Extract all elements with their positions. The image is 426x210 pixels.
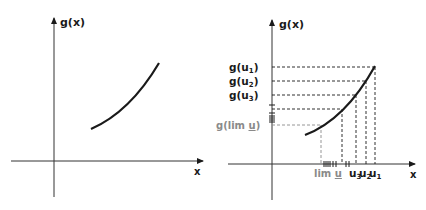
label-lim-u: lim u bbox=[314, 168, 342, 179]
left-graph: g(x) x bbox=[11, 16, 203, 197]
right-x-axis-label: x bbox=[410, 169, 417, 180]
right-graph: g(x) x bbox=[216, 18, 417, 200]
label-u1: u1 bbox=[369, 167, 381, 181]
projection-lines bbox=[272, 67, 375, 164]
label-g-u1: g(u1) bbox=[229, 61, 258, 75]
diagram-canvas: g(x) x g(x) x bbox=[0, 0, 426, 210]
right-curve bbox=[305, 66, 375, 135]
left-y-axis-label: g(x) bbox=[60, 16, 85, 29]
label-g-lim-u: g(lim u) bbox=[216, 120, 260, 131]
left-curve bbox=[91, 63, 159, 129]
label-g-u2: g(u2) bbox=[229, 75, 258, 89]
left-x-axis-label: x bbox=[194, 166, 201, 177]
label-g-u3: g(u3) bbox=[229, 89, 258, 103]
right-y-axis-label: g(x) bbox=[279, 18, 304, 31]
